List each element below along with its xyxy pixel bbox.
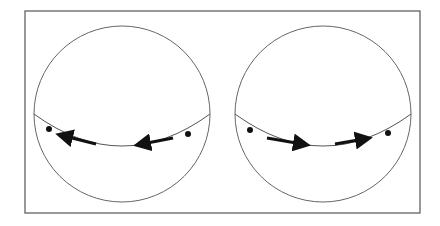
sphere-outline xyxy=(34,26,210,202)
arrow-right-icon xyxy=(267,138,302,144)
frame xyxy=(25,11,420,213)
sphere-outline xyxy=(235,26,411,202)
dot-marker xyxy=(385,130,391,136)
dot-marker xyxy=(185,131,191,137)
equator-curve xyxy=(34,114,210,146)
arrow-left-icon xyxy=(142,138,173,144)
dot-marker xyxy=(247,127,253,133)
left-sphere xyxy=(34,26,210,202)
equator-curve xyxy=(235,114,411,146)
arrow-left-icon xyxy=(64,136,96,144)
dot-marker xyxy=(46,126,52,132)
spheres-diagram xyxy=(0,0,440,226)
right-sphere xyxy=(235,26,411,202)
